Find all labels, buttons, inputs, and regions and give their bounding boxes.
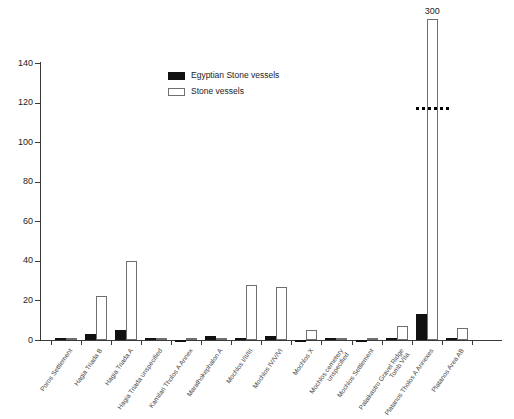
axis-break-marker [416, 107, 449, 110]
y-axis-tick [35, 261, 40, 262]
bar-egyptian-stone-vessels [115, 330, 126, 340]
bar-stone-vessels [156, 338, 167, 340]
category-label-line1: Mochlos I/II/III [225, 347, 254, 385]
x-axis-category-label: Platanos Area AB [429, 347, 465, 393]
legend-item-egyptian-stone-vessels: Egyptian Stone vessels [168, 70, 279, 81]
bar-egyptian-stone-vessels [295, 340, 306, 342]
bar-egyptian-stone-vessels [356, 340, 367, 342]
bar-stone-vessels [336, 338, 347, 340]
y-axis-tick [35, 103, 40, 104]
y-axis-tick-label: 100 [0, 138, 33, 147]
bar-egyptian-stone-vessels [446, 338, 457, 340]
x-axis-tick [51, 341, 52, 345]
chart-legend: Egyptian Stone vessels Stone vessels [168, 70, 279, 102]
y-axis-tick [35, 340, 40, 341]
category-label-line1: Mochlos X [291, 347, 314, 376]
x-axis-tick [201, 341, 202, 345]
bar-egyptian-stone-vessels [55, 338, 66, 340]
legend-item-stone-vessels: Stone vessels [168, 86, 279, 97]
category-label-line1: Platanos Area AB [429, 347, 464, 393]
x-axis-tick [81, 341, 82, 345]
x-axis-tick [111, 341, 112, 345]
x-axis-tick [171, 341, 172, 345]
bar-stone-vessels [216, 338, 227, 340]
y-axis-tick-label: 60 [0, 217, 33, 226]
bar-stone-vessels [397, 326, 408, 340]
bar-egyptian-stone-vessels [175, 340, 186, 342]
bar-egyptian-stone-vessels [85, 334, 96, 340]
category-label-line1: Hagia Triada B [73, 347, 104, 387]
bar-egyptian-stone-vessels [416, 314, 427, 340]
category-label-line1: Mochlos IV/V/VI [251, 347, 284, 389]
legend-label-stone-vessels: Stone vessels [191, 86, 244, 97]
y-axis-tick [35, 300, 40, 301]
bar-stone-vessels [367, 338, 378, 340]
bar-egyptian-stone-vessels [145, 338, 156, 340]
bar-stone-vessels [306, 330, 317, 340]
y-axis-tick-label: 120 [0, 98, 33, 107]
y-axis-tick-label: 140 [0, 59, 33, 68]
bar-egyptian-stone-vessels [325, 338, 336, 340]
x-axis-tick [291, 341, 292, 345]
y-axis-tick-label: 40 [0, 256, 33, 265]
x-axis-category-label: Mochlos IV/V/VI [251, 347, 284, 390]
bar-egyptian-stone-vessels [205, 336, 216, 340]
bar-stone-vessels [126, 261, 137, 340]
x-axis-category-label: Mochlos I/II/III [225, 347, 255, 385]
y-axis-line [40, 62, 41, 341]
x-axis-tick [352, 341, 353, 345]
x-axis-tick [412, 341, 413, 345]
legend-swatch-white-icon [168, 88, 185, 96]
x-axis-tick [442, 341, 443, 345]
legend-label-egyptian-stone-vessels: Egyptian Stone vessels [191, 70, 279, 81]
y-axis-tick [35, 63, 40, 64]
x-axis-tick [382, 341, 383, 345]
bar-egyptian-stone-vessels [235, 338, 246, 340]
bar-egyptian-stone-vessels [265, 336, 276, 340]
bar-egyptian-stone-vessels [386, 338, 397, 340]
y-axis-tick-label: 80 [0, 177, 33, 186]
x-axis-category-label: Mochlos X [291, 347, 315, 376]
x-axis-tick [472, 341, 473, 345]
bar-stone-vessels [186, 338, 197, 340]
x-axis-category-label: Hagia Triada B [73, 347, 104, 387]
legend-swatch-black-icon [168, 72, 185, 80]
x-axis-tick [141, 341, 142, 345]
x-axis-category-label: Hagia Triada A [103, 347, 134, 387]
y-axis-tick-label: 20 [0, 296, 33, 305]
bar-stone-vessels [246, 285, 257, 340]
x-axis-tick [231, 341, 232, 345]
bar-stone-vessels [457, 328, 468, 340]
y-axis-tick [35, 142, 40, 143]
x-axis-tick [261, 341, 262, 345]
stone-vessels-bar-chart: 020406080100120140 300 Egyptian Stone ve… [0, 0, 514, 419]
y-axis-tick [35, 182, 40, 183]
y-axis-tick [35, 221, 40, 222]
bar-stone-vessels [427, 19, 438, 340]
bar-stone-vessels [66, 338, 77, 340]
x-axis-tick [321, 341, 322, 345]
x-axis-category-label: Poros Settlement [39, 347, 74, 393]
x-axis-line [40, 340, 502, 341]
category-label-line1: Hagia Triada A [103, 347, 134, 386]
bar-value-annotation-300: 300 [418, 7, 447, 16]
category-label-line1: Poros Settlement [39, 347, 74, 392]
bar-stone-vessels [96, 296, 107, 340]
y-axis-tick-label: 0 [0, 336, 33, 345]
bar-stone-vessels [276, 287, 287, 340]
